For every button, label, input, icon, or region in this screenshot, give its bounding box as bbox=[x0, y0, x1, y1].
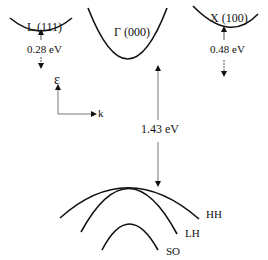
x-gap-label: 0.48 eV bbox=[210, 44, 245, 55]
so-band-curve bbox=[102, 224, 158, 250]
energy-axis-label: ε bbox=[54, 73, 60, 87]
hh-band-label: HH bbox=[206, 209, 222, 220]
lh-band-label: LH bbox=[185, 228, 200, 239]
l-gap-label: 0.28 eV bbox=[27, 44, 62, 55]
gamma-gap-label: 1.43 eV bbox=[141, 123, 179, 135]
k-axis-label: k bbox=[98, 108, 104, 119]
l-valley-label: L (111) bbox=[27, 21, 62, 33]
band-diagram: L (111) 0.28 eV Γ (000) 1.43 eV X (100) … bbox=[0, 0, 268, 260]
so-band-label: SO bbox=[166, 246, 180, 257]
hh-band-curve bbox=[60, 188, 199, 219]
gamma-valley-label: Γ (000) bbox=[114, 26, 150, 38]
x-valley-label: X (100) bbox=[210, 12, 248, 24]
band-diagram-graphics bbox=[0, 0, 268, 260]
